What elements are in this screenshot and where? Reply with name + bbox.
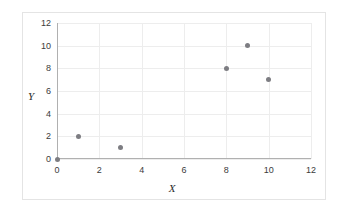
- y-tick-label: 4: [25, 109, 51, 119]
- data-point: [266, 77, 271, 82]
- data-point: [76, 134, 81, 139]
- data-point: [118, 145, 123, 150]
- y-tick-label: 6: [25, 86, 51, 96]
- gridline-vertical: [311, 23, 312, 159]
- gridline-horizontal: [57, 159, 311, 160]
- data-point: [55, 157, 60, 162]
- gridline-horizontal: [57, 46, 311, 47]
- y-axis-line: [57, 23, 58, 159]
- y-tick-label: 8: [25, 63, 51, 73]
- data-point: [245, 43, 250, 48]
- x-tick-label: 4: [139, 165, 144, 175]
- x-tick-label: 2: [97, 165, 102, 175]
- x-tick-label: 10: [264, 165, 274, 175]
- x-tick-label: 6: [181, 165, 186, 175]
- y-tick-label: 0: [25, 154, 51, 164]
- plot-area: [57, 23, 311, 159]
- y-tick-label: 2: [25, 131, 51, 141]
- gridline-horizontal: [57, 114, 311, 115]
- x-axis-line: [57, 158, 311, 159]
- gridline-horizontal: [57, 68, 311, 69]
- y-tick-label: 10: [25, 41, 51, 51]
- x-axis-title: X: [0, 182, 344, 194]
- scatter-plot-figure: Y X 024681012 024681012: [0, 0, 344, 215]
- x-tick-label: 12: [306, 165, 316, 175]
- y-tick-label: 12: [25, 18, 51, 28]
- data-point: [224, 66, 229, 71]
- gridline-horizontal: [57, 23, 311, 24]
- gridline-horizontal: [57, 91, 311, 92]
- x-tick-label: 8: [224, 165, 229, 175]
- x-tick-label: 0: [54, 165, 59, 175]
- gridline-horizontal: [57, 136, 311, 137]
